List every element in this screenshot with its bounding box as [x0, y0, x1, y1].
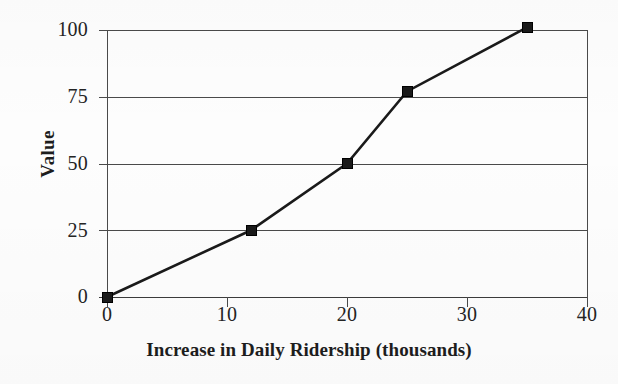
chart-figure: 100 75 50 25 0 0 10 20 30 40 Value Incre… [0, 0, 618, 384]
x-tick-label-0: 0 [77, 303, 137, 326]
plot-right-border [587, 30, 588, 298]
gridline-0 [99, 297, 588, 298]
y-axis-title: Value [37, 99, 59, 209]
gridline-25 [99, 230, 588, 231]
x-tick-label-10: 10 [197, 303, 257, 326]
y-axis-line [107, 30, 108, 298]
data-point-marker [402, 86, 413, 97]
x-axis-title: Increase in Daily Ridership (thousands) [0, 339, 618, 361]
x-tick-label-20: 20 [317, 303, 377, 326]
y-tick-label-25: 25 [18, 219, 88, 242]
x-tick-label-40: 40 [557, 303, 617, 326]
gridline-75 [99, 97, 588, 98]
data-point-marker [342, 158, 353, 169]
gridline-100 [99, 30, 588, 31]
data-point-marker [522, 22, 533, 33]
data-point-marker [102, 292, 113, 303]
y-tick-label-100: 100 [18, 18, 88, 41]
data-point-marker [246, 225, 257, 236]
x-tick-label-30: 30 [437, 303, 497, 326]
